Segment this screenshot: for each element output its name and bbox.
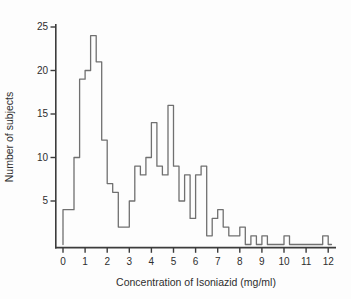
histogram-step-line — [63, 36, 332, 245]
x-tick-label: 12 — [323, 256, 335, 267]
x-tick-label: 9 — [259, 256, 265, 267]
x-tick-label: 8 — [237, 256, 243, 267]
x-tick-label: 0 — [60, 256, 66, 267]
x-tick-label: 4 — [149, 256, 155, 267]
plot-area: 5101520250123456789101112 — [37, 21, 336, 266]
y-tick-label: 5 — [42, 195, 48, 206]
figure: 5101520250123456789101112 Number of subj… — [0, 0, 351, 299]
isoniazid-histogram-chart: 5101520250123456789101112 Number of subj… — [0, 0, 351, 299]
x-tick-label: 11 — [301, 256, 312, 267]
x-tick-label: 7 — [215, 256, 221, 267]
x-tick-label: 6 — [193, 256, 199, 267]
x-tick-label: 1 — [82, 256, 88, 267]
x-tick-label: 10 — [278, 256, 290, 267]
x-tick-label: 2 — [104, 256, 110, 267]
y-tick-label: 25 — [37, 21, 49, 32]
x-axis-title: Concentration of Isoniazid (mg/ml) — [116, 276, 276, 288]
x-tick-label: 3 — [127, 256, 133, 267]
y-tick-label: 20 — [37, 65, 49, 76]
x-tick-label: 5 — [171, 256, 177, 267]
y-tick-label: 10 — [37, 152, 49, 163]
y-axis-title: Number of subjects — [3, 92, 15, 182]
y-tick-label: 15 — [37, 108, 49, 119]
